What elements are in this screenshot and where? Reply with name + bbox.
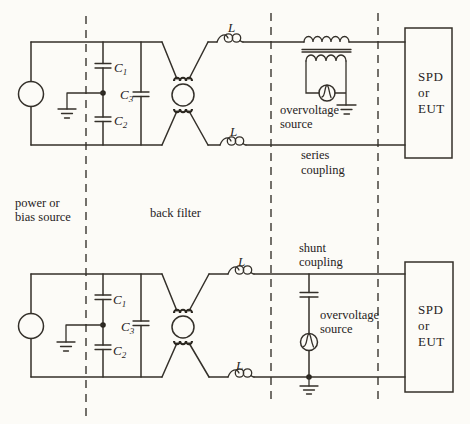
- power-source-top: [19, 42, 44, 145]
- secondary-winding: [306, 55, 346, 61]
- inductor-label: L: [227, 20, 235, 35]
- capacitor-c2-label: C2: [113, 343, 127, 360]
- series-coupling-label-line2: coupling: [301, 163, 345, 177]
- section-divider-lines: [86, 13, 378, 416]
- core-lines: [302, 50, 351, 53]
- ground-symbol: [337, 105, 356, 114]
- overvoltage-label-bottom-line2: source: [320, 322, 353, 336]
- surge-generator-circle: [319, 85, 335, 101]
- transformer-core: [172, 316, 194, 338]
- impulse-icon: [304, 334, 314, 347]
- shunt-coupling-label-line2: coupling: [299, 255, 343, 269]
- source-circle: [19, 314, 44, 339]
- load-box-top: SPD or EUT: [405, 28, 452, 158]
- inductor-label: L: [237, 254, 245, 269]
- shunt-coupling-label-line1: shunt: [299, 241, 327, 255]
- transformer-core: [172, 84, 194, 106]
- bottom-circuit: SPD or EUT: [19, 262, 454, 394]
- power-source-bottom: [19, 274, 44, 377]
- series-coupling-label-line1: series: [301, 148, 330, 162]
- shunt-coupling-branch: [300, 274, 318, 394]
- capacitor-branch-c3: [133, 42, 149, 145]
- back-filter-label: back filter: [150, 206, 202, 220]
- load-box-bottom: SPD or EUT: [405, 262, 453, 392]
- back-filter-transformer: [162, 42, 208, 145]
- load-box-label-3: EUT: [418, 334, 445, 349]
- inductor-label: L: [235, 358, 243, 373]
- overvoltage-label-top-line2: source: [280, 117, 313, 131]
- source-circle: [19, 82, 44, 107]
- overvoltage-label-top-line1: overvoltage: [280, 103, 339, 117]
- circuit-diagram: SPD or EUT: [0, 0, 470, 424]
- source-label-line2: bias source: [15, 210, 71, 224]
- diagram-canvas: SPD or EUT: [0, 0, 470, 424]
- back-filter-transformer: [162, 274, 209, 377]
- ground-symbol: [58, 93, 103, 118]
- capacitor-c2-label: C2: [114, 113, 128, 130]
- load-box-label-2: or: [418, 85, 430, 100]
- load-box-label-2: or: [418, 318, 430, 333]
- load-box-label-1: SPD: [418, 69, 443, 84]
- inductor-bottom-line: [208, 137, 405, 145]
- primary-winding: [304, 37, 349, 43]
- capacitor-c3-label: C3: [120, 87, 134, 104]
- overvoltage-source-top: [319, 85, 335, 101]
- load-box-label-3: EUT: [418, 101, 445, 116]
- source-label-line1: power or: [15, 196, 61, 210]
- ground-symbol: [300, 377, 318, 394]
- overvoltage-label-bottom-line1: overvoltage: [320, 308, 379, 322]
- series-coupling-transformer: [302, 37, 351, 106]
- capacitor-c1-label: C1: [113, 292, 126, 309]
- inductor-top-line: [208, 34, 304, 42]
- surge-generator-circle: [301, 334, 318, 351]
- overvoltage-source-bottom: [301, 334, 318, 351]
- impulse-icon: [322, 86, 331, 98]
- capacitor-c1-label: C1: [114, 60, 127, 77]
- capacitor-branch-c3: [133, 274, 149, 377]
- text-labels: power or bias source back filter overvol…: [15, 20, 379, 373]
- load-box-label-1: SPD: [418, 302, 443, 317]
- capacitor-c3-label: C3: [121, 319, 135, 336]
- inductor-label: L: [229, 124, 237, 139]
- ground-symbol: [57, 325, 103, 351]
